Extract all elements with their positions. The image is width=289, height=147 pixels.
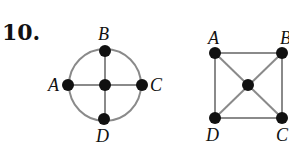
label-d: D [95,126,109,146]
figure: 10. B A C D A B D C [0,0,289,147]
vertex-center [242,79,254,91]
vertex-b [276,47,288,59]
vertex-a [209,47,221,59]
problem-number: 10. [2,19,40,45]
vertex-c [136,79,148,91]
label-a: A [207,28,220,48]
label-d: D [205,125,219,145]
vertex-center [99,79,111,91]
vertex-a [62,79,74,91]
vertex-d [209,112,221,124]
vertex-b [99,45,111,57]
vertex-c [276,112,288,124]
label-c: C [150,75,163,95]
vertex-d [98,113,110,125]
square-diagonals-graph: A B D C [205,28,289,145]
circle-cross-graph: B A C D [47,24,163,146]
label-c: C [276,125,289,145]
label-b: B [98,24,109,44]
label-b: B [280,28,289,48]
label-a: A [47,75,60,95]
